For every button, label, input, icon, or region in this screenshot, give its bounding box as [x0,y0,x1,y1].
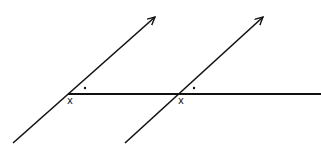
angle-dot-2 [193,87,195,89]
diagram-svg: x x [0,0,321,152]
angle-label-x-2: x [178,95,184,106]
angle-dot-1 [84,87,86,89]
transversal-line-2 [125,17,263,143]
transversal-line-1 [13,17,155,143]
diagram-canvas: x x [0,0,321,152]
angle-label-x-1: x [67,95,73,106]
